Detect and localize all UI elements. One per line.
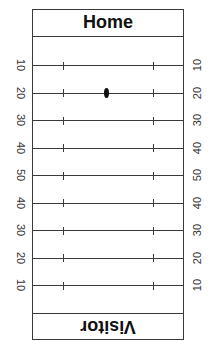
hash-right-mark xyxy=(153,144,154,152)
hash-left-mark xyxy=(63,89,64,97)
yard-number-left: 30 xyxy=(14,110,28,130)
yard-number-left: 40 xyxy=(14,138,28,158)
visitor-endzone-label: Visitor xyxy=(32,313,184,340)
yard-number-left: 10 xyxy=(14,275,28,295)
hash-right-mark xyxy=(153,117,154,125)
yard-number-left: 10 xyxy=(14,55,28,75)
hash-right-mark xyxy=(153,227,154,235)
yard-line xyxy=(32,148,184,149)
yard-number-left: 20 xyxy=(14,248,28,268)
hash-left-mark xyxy=(63,199,64,207)
home-endzone-line xyxy=(32,36,184,37)
yard-number-right: 40 xyxy=(190,193,204,213)
hash-left-mark xyxy=(63,62,64,70)
football-icon[interactable] xyxy=(104,88,109,98)
yard-number-right: 30 xyxy=(190,110,204,130)
hash-left-mark xyxy=(63,282,64,290)
yard-number-left: 50 xyxy=(14,165,28,185)
yard-number-right: 40 xyxy=(190,138,204,158)
yard-line xyxy=(32,203,184,204)
yard-number-right: 20 xyxy=(190,248,204,268)
yard-line xyxy=(32,65,184,66)
yard-line xyxy=(32,285,184,286)
hash-left-mark xyxy=(63,254,64,262)
yard-number-right: 20 xyxy=(190,83,204,103)
hash-right-mark xyxy=(153,254,154,262)
yard-number-right: 10 xyxy=(190,55,204,75)
hash-left-mark xyxy=(63,172,64,180)
yard-number-right: 50 xyxy=(190,165,204,185)
yard-line xyxy=(32,230,184,231)
yard-line xyxy=(32,120,184,121)
yard-number-left: 30 xyxy=(14,220,28,240)
hash-right-mark xyxy=(153,62,154,70)
hash-left-mark xyxy=(63,227,64,235)
hash-right-mark xyxy=(153,172,154,180)
yard-number-right: 10 xyxy=(190,275,204,295)
yard-number-left: 20 xyxy=(14,83,28,103)
hash-left-mark xyxy=(63,144,64,152)
yard-line xyxy=(32,258,184,259)
hash-right-mark xyxy=(153,282,154,290)
yard-number-right: 30 xyxy=(190,220,204,240)
yard-line xyxy=(32,175,184,176)
yard-number-left: 40 xyxy=(14,193,28,213)
home-endzone-label: Home xyxy=(32,9,184,36)
hash-right-mark xyxy=(153,199,154,207)
hash-right-mark xyxy=(153,89,154,97)
hash-left-mark xyxy=(63,117,64,125)
